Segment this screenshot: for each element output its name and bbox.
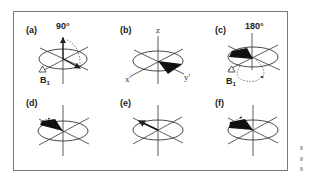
refocusing-fan-wedge xyxy=(229,48,253,59)
margin-mark xyxy=(300,146,303,150)
axis-z-label: z xyxy=(156,25,160,35)
panel-c: (c) 180° B1 xyxy=(215,21,280,87)
rotation-path-bottom-icon xyxy=(237,66,262,81)
b1-label: B1 xyxy=(40,75,51,86)
dephasing-fan-wedge xyxy=(158,61,182,74)
pulse-angle-180: 180° xyxy=(245,21,264,31)
b1-label: B1 xyxy=(226,76,237,87)
echo-vector-arrow xyxy=(139,121,158,130)
panel-b: (b) z x' y' xyxy=(120,25,191,84)
flip-path-icon xyxy=(256,60,264,78)
panel-d: (d) xyxy=(26,98,89,156)
panel-d-label: (d) xyxy=(26,98,38,108)
panel-f-label: (f) xyxy=(215,98,224,108)
axis-x-label: x' xyxy=(125,74,132,84)
margin-mark xyxy=(300,157,303,161)
panel-a: (a) 90° B1 xyxy=(26,21,88,86)
margin-mark xyxy=(300,167,303,171)
dephase-motion-icon xyxy=(236,117,242,120)
spin-echo-diagram: (a) 90° B1 (b) z x' y' (c) 180° B1 xyxy=(0,0,316,184)
panel-f: (f) xyxy=(215,98,278,156)
panel-e: (e) xyxy=(120,98,183,156)
panel-c-label: (c) xyxy=(215,25,226,35)
axis-y-label: y' xyxy=(184,72,191,82)
panel-e-label: (e) xyxy=(120,98,131,108)
magnetization-arrow-tipped xyxy=(63,59,80,68)
pulse-angle-90: 90° xyxy=(56,21,70,31)
panel-a-label: (a) xyxy=(26,25,37,35)
panel-b-label: (b) xyxy=(120,25,132,35)
